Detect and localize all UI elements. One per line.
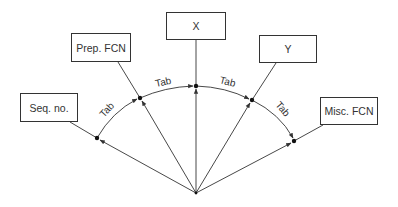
arc-tab-3 <box>196 86 249 99</box>
leader-y <box>252 63 276 100</box>
box-misc-fcn: Misc. FCN <box>320 97 378 125</box>
arc-tab-2 <box>140 86 193 98</box>
diagram-canvas: Tab Tab Tab Tab Seq. no. Prep. FCN X Y M… <box>0 0 398 207</box>
box-x: X <box>166 12 226 40</box>
leader-misc <box>294 125 323 141</box>
box-y-label: Y <box>284 43 291 55</box>
leader-seq <box>70 122 97 138</box>
box-seq-no: Seq. no. <box>20 93 78 122</box>
box-seq-no-label: Seq. no. <box>29 102 68 114</box>
ray-y <box>196 103 250 193</box>
box-prep-fcn: Prep. FCN <box>71 33 131 62</box>
ray-seq <box>100 140 196 193</box>
tab-label-3: Tab <box>219 74 238 89</box>
node-prep <box>138 96 142 100</box>
ray-misc <box>196 143 291 193</box>
box-prep-fcn-label: Prep. FCN <box>76 42 126 54</box>
node-x <box>194 84 198 88</box>
ray-prep <box>142 101 196 193</box>
tab-label-2: Tab <box>154 75 172 89</box>
node-misc <box>292 139 296 143</box>
box-y: Y <box>259 35 317 63</box>
leader-prep <box>118 62 140 98</box>
box-x-label: X <box>192 20 199 32</box>
node-origin <box>195 192 198 195</box>
node-seq <box>95 136 99 140</box>
box-misc-fcn-label: Misc. FCN <box>325 105 374 117</box>
node-y <box>250 98 254 102</box>
